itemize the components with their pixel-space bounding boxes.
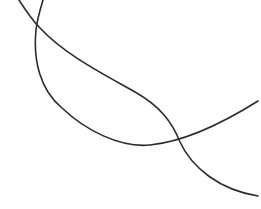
curves-svg: [0, 0, 261, 209]
drawing-canvas: [0, 0, 261, 209]
curve-a: [19, 0, 258, 196]
curve-b: [35, 0, 258, 145]
